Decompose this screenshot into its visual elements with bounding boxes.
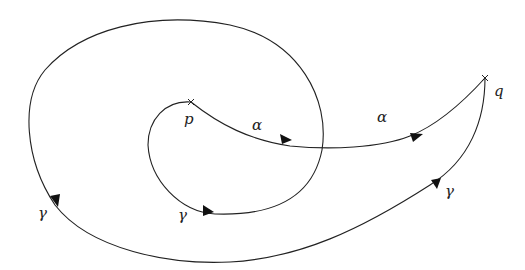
label-alpha-1: α [252, 116, 262, 134]
diagram-svg: p q α α γ γ γ [0, 0, 525, 270]
path-alpha [191, 78, 485, 148]
homotopy-diagram: p q α α γ γ γ [0, 0, 525, 270]
label-gamma-inner: γ [178, 206, 187, 224]
arrowhead-alpha-1 [280, 134, 292, 144]
label-p: p [184, 110, 194, 128]
label-gamma-right: γ [445, 182, 454, 200]
label-alpha-2: α [377, 108, 387, 126]
arrowhead-alpha-2 [410, 133, 423, 142]
label-gamma-left: γ [38, 204, 47, 222]
label-q: q [494, 82, 504, 100]
path-gamma [29, 20, 485, 262]
